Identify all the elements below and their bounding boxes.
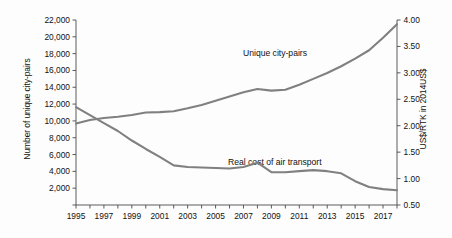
svg-text:2.00: 2.00 — [404, 121, 421, 131]
svg-text:6,000: 6,000 — [49, 150, 70, 160]
svg-text:14,000: 14,000 — [44, 82, 70, 92]
svg-text:8,000: 8,000 — [49, 133, 70, 143]
svg-text:12,000: 12,000 — [44, 99, 70, 109]
chart-figure: Number of unique city-pairs US$/RTK in 2… — [0, 0, 452, 238]
svg-text:2001: 2001 — [150, 211, 169, 221]
series-line-real-cost — [76, 107, 397, 190]
svg-text:16,000: 16,000 — [44, 65, 70, 75]
svg-text:2005: 2005 — [206, 211, 225, 221]
svg-text:1.00: 1.00 — [404, 174, 421, 184]
chart-plot-area: 2,0004,0006,0008,00010,00012,00014,00016… — [0, 0, 452, 238]
svg-text:2003: 2003 — [178, 211, 197, 221]
svg-text:2013: 2013 — [318, 211, 337, 221]
right-axis-ticks: 0.501.001.502.002.503.003.504.00 — [397, 15, 420, 210]
svg-text:2011: 2011 — [290, 211, 308, 221]
svg-text:4,000: 4,000 — [49, 166, 70, 176]
svg-text:1997: 1997 — [95, 211, 114, 221]
svg-text:20,000: 20,000 — [44, 32, 70, 42]
svg-text:2017: 2017 — [374, 211, 393, 221]
svg-text:4.00: 4.00 — [404, 15, 421, 25]
left-axis-ticks: 2,0004,0006,0008,00010,00012,00014,00016… — [44, 15, 76, 205]
svg-text:2007: 2007 — [234, 211, 253, 221]
svg-text:10,000: 10,000 — [44, 116, 70, 126]
svg-text:1999: 1999 — [123, 211, 142, 221]
svg-text:0.50: 0.50 — [404, 200, 421, 210]
series-line-unique-city-pairs — [76, 24, 397, 123]
svg-text:2,000: 2,000 — [49, 183, 70, 193]
svg-text:1995: 1995 — [67, 211, 86, 221]
svg-text:2.50: 2.50 — [404, 94, 421, 104]
x-axis-ticks: 1995199719992001200320052007200920112013… — [67, 205, 397, 221]
svg-text:3.00: 3.00 — [404, 68, 421, 78]
svg-text:22,000: 22,000 — [44, 15, 70, 25]
svg-text:3.50: 3.50 — [404, 41, 421, 51]
svg-text:1.50: 1.50 — [404, 147, 421, 157]
svg-text:2015: 2015 — [346, 211, 365, 221]
svg-text:2009: 2009 — [262, 211, 281, 221]
svg-text:18,000: 18,000 — [44, 49, 70, 59]
